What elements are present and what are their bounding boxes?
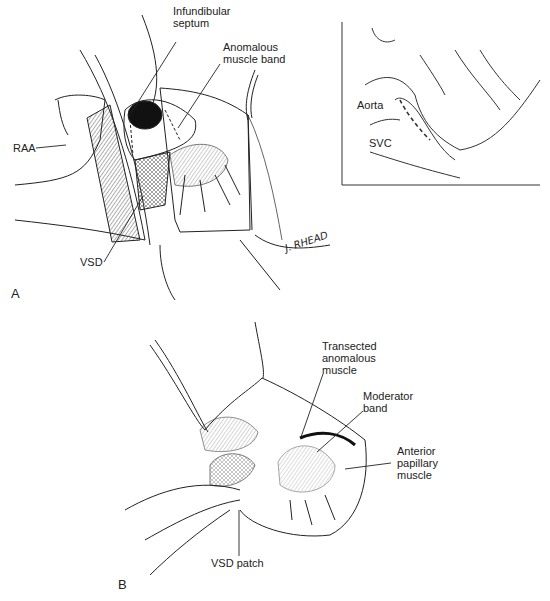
label-aorta: Aorta xyxy=(357,99,383,111)
label-anterior-papillary-muscle: Anterior papillary muscle xyxy=(397,445,438,481)
panel-label-b: B xyxy=(118,577,127,592)
panel-label-a: A xyxy=(11,286,20,301)
label-vsd: VSD xyxy=(80,256,103,268)
label-transected-anomalous-muscle: Transected anomalous muscle xyxy=(322,340,377,376)
label-svc: SVC xyxy=(369,137,392,149)
label-raa: RAA xyxy=(13,142,36,154)
label-vsd-patch: VSD patch xyxy=(211,557,264,569)
illustration-linework xyxy=(0,0,550,601)
label-anomalous-muscle-band: Anomalous muscle band xyxy=(223,41,285,65)
label-moderator-band: Moderator band xyxy=(363,390,413,414)
label-infundibular-septum: Infundibular septum xyxy=(173,5,231,29)
